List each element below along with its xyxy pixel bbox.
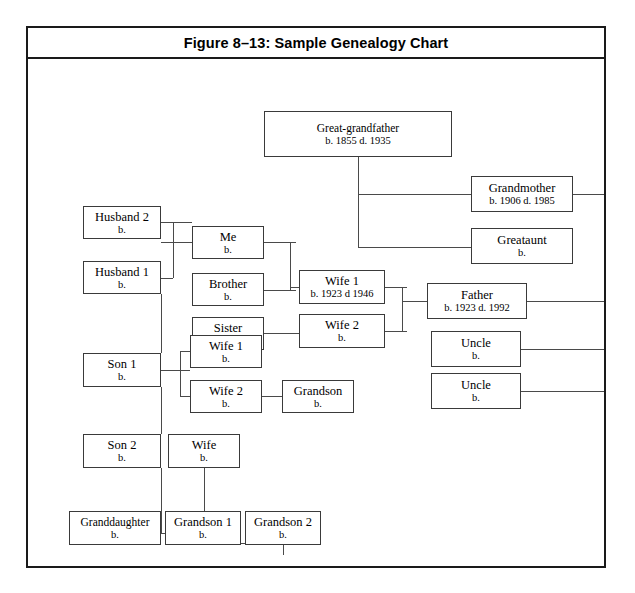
- node-name: Brother: [209, 277, 247, 291]
- node-husband_2[interactable]: Husband 2b.: [83, 206, 161, 239]
- node-brother[interactable]: Brotherb.: [192, 273, 264, 306]
- node-dates: b.: [199, 529, 207, 541]
- connector-line: [402, 287, 403, 331]
- connector-line: [290, 242, 291, 290]
- node-wife_1_top[interactable]: Wife 1b. 1923 d 1946: [299, 270, 385, 304]
- node-uncle_2[interactable]: Uncleb.: [431, 373, 521, 409]
- node-dates: b.: [314, 398, 322, 410]
- node-son_2[interactable]: Son 2b.: [83, 434, 161, 468]
- connector-line: [358, 157, 359, 248]
- node-name: Husband 1: [95, 265, 149, 279]
- node-husband_1[interactable]: Husband 1b.: [83, 261, 161, 294]
- node-dates: b.: [118, 452, 126, 464]
- node-dates: b.: [224, 291, 232, 303]
- node-name: Granddaughter: [81, 516, 150, 529]
- node-uncle_1[interactable]: Uncleb.: [431, 331, 521, 367]
- node-dates: b.: [472, 392, 480, 404]
- connector-line: [264, 290, 296, 291]
- node-dates: b.: [200, 452, 208, 464]
- connector-line: [573, 194, 604, 195]
- node-dates: b.: [224, 244, 232, 256]
- connector-line: [161, 468, 162, 533]
- node-dates: b.: [222, 353, 230, 365]
- node-dates: b.: [279, 529, 287, 541]
- node-dates: b. 1906 d. 1985: [489, 195, 555, 207]
- node-grandson_1[interactable]: Grandson 1b.: [165, 511, 241, 545]
- connector-line: [161, 242, 192, 243]
- node-dates: b.: [518, 247, 526, 259]
- node-name: Great-grandfather: [317, 122, 399, 135]
- connector-line: [161, 294, 162, 353]
- node-name: Uncle: [461, 378, 491, 392]
- node-dates: b.: [118, 371, 126, 383]
- node-name: Grandson 1: [174, 515, 232, 529]
- node-dates: b. 1923 d. 1992: [444, 302, 510, 314]
- connector-line: [173, 222, 174, 278]
- connector-line: [358, 247, 471, 248]
- connector-line: [180, 396, 190, 397]
- node-me[interactable]: Meb.: [192, 226, 264, 259]
- connector-line: [161, 278, 173, 279]
- node-name: Wife 2: [325, 318, 359, 332]
- node-name: Son 2: [108, 438, 137, 452]
- node-dates: b. 1855 d. 1935: [325, 135, 391, 147]
- node-name: Greataunt: [497, 233, 546, 247]
- genealogy-chart-canvas: Great-grandfatherb. 1855 d. 1935Grandmot…: [28, 59, 604, 566]
- node-dates: b.: [118, 279, 126, 291]
- node-dates: b.: [118, 224, 126, 236]
- figure-title-bar: Figure 8–13: Sample Genealogy Chart: [28, 28, 604, 59]
- connector-line: [385, 287, 407, 288]
- node-dates: b.: [111, 529, 119, 541]
- node-name: Wife 2: [209, 384, 243, 398]
- connector-line: [180, 351, 190, 352]
- node-dates: b.: [472, 350, 480, 362]
- node-father[interactable]: Fatherb. 1923 d. 1992: [427, 283, 527, 319]
- node-dates: b.: [222, 398, 230, 410]
- connector-line: [521, 391, 604, 392]
- connector-line: [358, 194, 471, 195]
- page-title: Figure 8–13: Sample Genealogy Chart: [184, 35, 449, 51]
- connector-line: [402, 301, 427, 302]
- node-name: Grandmother: [489, 181, 556, 195]
- node-name: Wife: [192, 438, 216, 452]
- node-name: Grandson 2: [254, 515, 312, 529]
- connector-line: [264, 242, 296, 243]
- connector-line: [161, 222, 192, 223]
- node-name: Wife 1: [325, 274, 359, 288]
- node-dates: b.: [338, 332, 346, 344]
- connector-line: [161, 387, 162, 434]
- node-wife_son2[interactable]: Wifeb.: [168, 434, 240, 468]
- node-name: Uncle: [461, 336, 491, 350]
- node-son_1[interactable]: Son 1b.: [83, 353, 161, 387]
- node-name: Grandson: [294, 384, 343, 398]
- node-name: Sister: [214, 321, 242, 335]
- node-name: Son 1: [108, 357, 137, 371]
- node-grandson_son1[interactable]: Grandsonb.: [282, 380, 354, 413]
- node-grandmother[interactable]: Grandmotherb. 1906 d. 1985: [471, 176, 573, 212]
- connector-line: [264, 333, 299, 334]
- node-wife_1_son[interactable]: Wife 1b.: [190, 335, 262, 368]
- connector-line: [290, 287, 299, 288]
- node-dates: b. 1923 d 1946: [311, 288, 374, 300]
- connector-line: [385, 331, 407, 332]
- figure-frame: Figure 8–13: Sample Genealogy Chart Grea…: [26, 26, 606, 568]
- node-wife_2_son[interactable]: Wife 2b.: [190, 380, 262, 413]
- connector-line: [527, 301, 604, 302]
- node-name: Wife 1: [209, 339, 243, 353]
- connector-line: [262, 396, 282, 397]
- node-granddaughter[interactable]: Granddaughterb.: [69, 511, 161, 545]
- node-name: Father: [461, 288, 493, 302]
- node-grandson_2[interactable]: Grandson 2b.: [245, 511, 321, 545]
- node-great_grandfather[interactable]: Great-grandfatherb. 1855 d. 1935: [264, 111, 452, 157]
- node-greataunt[interactable]: Greatauntb.: [471, 228, 573, 264]
- node-wife_2_top[interactable]: Wife 2b.: [299, 314, 385, 348]
- node-name: Husband 2: [95, 210, 149, 224]
- connector-line: [180, 351, 181, 396]
- connector-line: [521, 349, 604, 350]
- node-name: Me: [220, 230, 237, 244]
- connector-line: [161, 370, 190, 371]
